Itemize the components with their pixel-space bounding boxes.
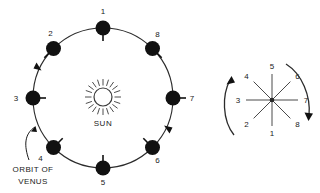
star-label-2: 2 (244, 120, 249, 129)
planet-dot-1 (96, 21, 111, 36)
planet-dot-5 (96, 161, 111, 176)
venus-orbit-figure: SUN 1 2 3 4 5 (0, 0, 320, 193)
star-label-5: 5 (270, 62, 275, 71)
orbit-caption-line2: VENUS (18, 177, 48, 186)
planet-label-6: 6 (155, 156, 160, 165)
star-center-hub (270, 98, 275, 103)
star-ray-6 (272, 82, 290, 100)
planet-dot-3 (26, 91, 41, 106)
phase-star-diagram: 1 2 3 4 5 6 7 8 (224, 62, 313, 138)
planet-label-7: 7 (190, 94, 195, 103)
planet-marker-7: 7 (166, 91, 195, 106)
star-label-4: 4 (244, 72, 249, 81)
orbit-caption-line1: ORBIT OF (13, 165, 54, 174)
planet-dot-6 (145, 140, 160, 155)
star-label-1: 1 (270, 129, 275, 138)
planet-label-8: 8 (155, 30, 160, 39)
planet-marker-4: 4 (38, 138, 62, 162)
star-ray-8 (272, 100, 290, 118)
planet-label-3: 3 (14, 94, 19, 103)
planet-label-2: 2 (48, 29, 53, 38)
planet-marker-3: 3 (14, 91, 46, 106)
planet-marker-5: 5 (96, 155, 111, 187)
star-ray-2 (254, 100, 272, 118)
sun-label: SUN (94, 119, 113, 128)
planet-marker-2: 2 (44, 29, 61, 58)
star-rays (246, 74, 298, 126)
sun-symbol: SUN (85, 79, 121, 128)
planet-dot-7 (166, 91, 181, 106)
orbit-caption-leader (26, 127, 35, 160)
orbit-diagram: SUN 1 2 3 4 5 (13, 7, 195, 187)
planet-label-5: 5 (101, 178, 106, 187)
star-label-3: 3 (236, 96, 241, 105)
planet-marker-8: 8 (145, 30, 162, 58)
sun-disc (94, 88, 112, 106)
planet-marker-6: 6 (143, 138, 160, 164)
star-label-8: 8 (295, 120, 300, 129)
star-ray-4 (254, 82, 272, 100)
rotation-arrow-left (224, 76, 235, 135)
planet-marker-1: 1 (96, 7, 111, 41)
planet-dot-4 (46, 140, 61, 155)
planet-label-1: 1 (101, 7, 106, 16)
planet-label-4: 4 (38, 154, 43, 163)
planet-dot-2 (46, 41, 61, 56)
planet-dot-8 (145, 41, 160, 56)
orbit-caption-group: ORBIT OF VENUS (13, 126, 54, 186)
